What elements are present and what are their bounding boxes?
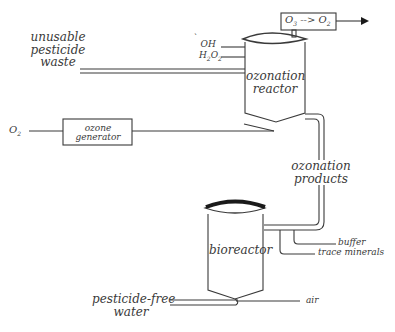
ozone-destruct-label: O3 --> O2: [285, 15, 331, 27]
ozone-generator-label: ozone generator: [64, 124, 132, 143]
h2o2-input-label: H2O2: [199, 51, 222, 62]
bioreactor-label: bioreactor: [209, 244, 272, 257]
trace-minerals-label: trace minerals: [318, 248, 384, 257]
air-input-label: air: [306, 296, 319, 305]
waste-input-label: unusable pesticide waste: [30, 31, 86, 69]
output-water-label: pesticide-free water: [92, 293, 170, 318]
exhaust-arrow-icon: [361, 17, 369, 25]
radical-mark: `: [193, 33, 198, 43]
ozonation-reactor-label: ozonation reactor: [246, 70, 304, 95]
o2-input-label: O2: [9, 125, 21, 137]
ozonation-products-label: ozonation products: [288, 160, 354, 185]
oh-input-label: `OH: [196, 40, 216, 49]
